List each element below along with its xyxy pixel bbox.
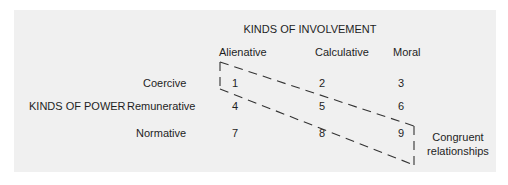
congruent-diagonal-dashed-outline xyxy=(0,0,508,185)
